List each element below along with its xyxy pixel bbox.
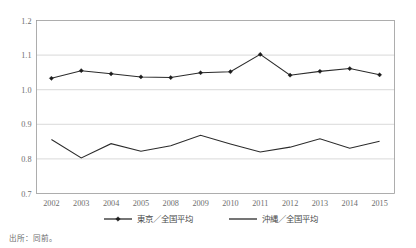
x-tick-label: 2009	[192, 199, 208, 208]
x-tick-label: 2014	[342, 199, 358, 208]
legend-label-1: 東京／全国平均	[137, 214, 193, 224]
source-note: 出所：同前。	[9, 233, 57, 243]
x-tick-label: 2010	[222, 199, 238, 208]
y-tick-label: 0.8	[21, 155, 31, 164]
x-tick-label: 2015	[371, 199, 387, 208]
x-tick-label: 2005	[133, 199, 149, 208]
y-tick-label: 1.0	[21, 86, 31, 95]
line-chart: 0.70.80.91.01.11.2 200220032004200520082…	[0, 0, 416, 248]
x-tick-label: 2012	[282, 199, 298, 208]
y-tick-label: 1.1	[21, 51, 31, 60]
y-tick-label: 1.2	[21, 17, 31, 26]
x-tick-label: 2003	[73, 199, 89, 208]
x-tick-label: 2013	[312, 199, 328, 208]
x-tick-label: 2004	[103, 199, 119, 208]
y-tick-label: 0.7	[21, 190, 31, 199]
legend-label-2: 沖縄／全国平均	[262, 214, 318, 224]
x-tick-label: 2002	[43, 199, 59, 208]
y-tick-label: 0.9	[21, 120, 31, 129]
x-tick-label: 2008	[163, 199, 179, 208]
x-tick-label: 2011	[252, 199, 268, 208]
chart-figure: 0.70.80.91.01.11.2 200220032004200520082…	[0, 0, 416, 248]
